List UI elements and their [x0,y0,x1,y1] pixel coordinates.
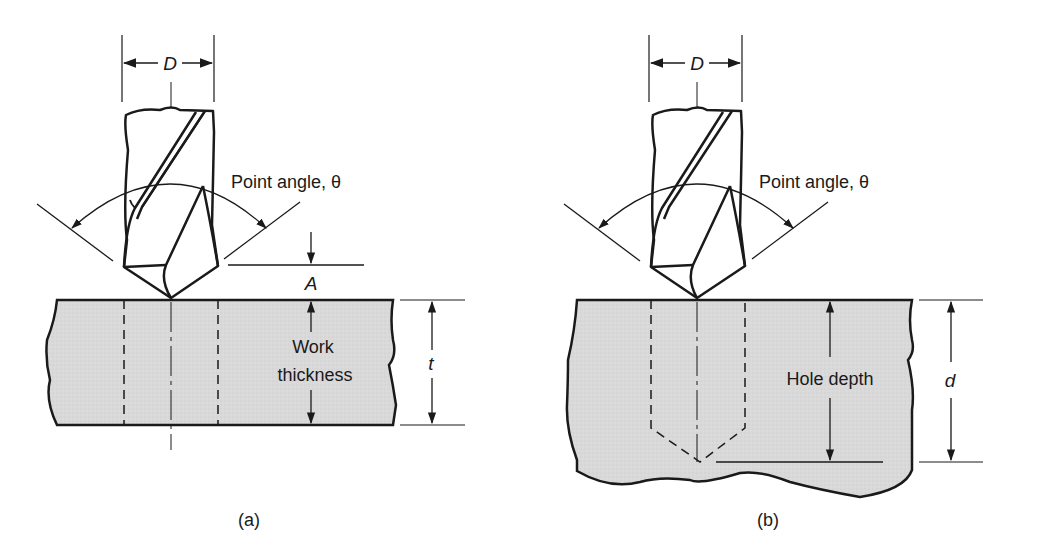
hole-depth-label-b: Hole depth [786,369,873,389]
angle-ref-left-a [37,204,113,261]
point-angle-label-a: Point angle, θ [231,172,341,192]
angle-ref-right-a [224,202,300,259]
approach-label-a: A [304,273,318,294]
angle-ref-left-b [564,204,640,261]
angle-ref-right-b [752,202,828,259]
diameter-label-b: D [690,53,704,74]
work-label-line1-a: Work [292,337,335,357]
workpiece-a [46,300,396,425]
caption-a: (a) [238,510,260,530]
point-angle-label-b: Point angle, θ [759,172,869,192]
drilling-diagram: D Point angle, θ A Work thickness [0,0,1042,556]
diameter-label-a: D [163,53,177,74]
drill-bit-a [124,108,218,299]
thickness-dimension-label: t [428,353,434,374]
caption-b: (b) [757,510,779,530]
panel-b: D Point angle, θ Hole depth d (b) [564,35,983,530]
depth-dimension-label: d [945,370,957,391]
panel-a: D Point angle, θ A Work thickness [37,35,465,530]
workpiece-b [567,300,913,497]
drill-bit-b [651,108,745,299]
work-label-line2-a: thickness [277,365,352,385]
